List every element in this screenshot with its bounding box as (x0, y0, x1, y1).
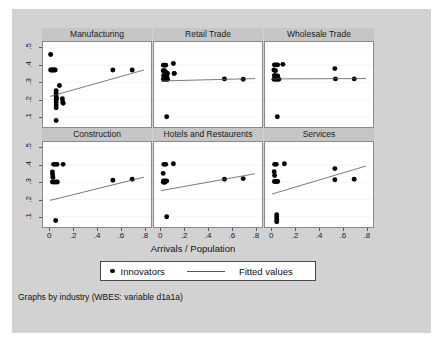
y-tick-mark (39, 82, 42, 83)
plot-area (264, 41, 374, 128)
x-tick-label: .2 (287, 231, 303, 240)
data-point (57, 83, 62, 88)
x-tick-label: .6 (335, 231, 351, 240)
data-point (332, 166, 337, 171)
panel-services: Services (264, 128, 374, 228)
data-point (171, 61, 176, 66)
legend-item-fitted-values: Fitted values (187, 266, 293, 277)
x-tick-mark (208, 228, 209, 231)
x-tick-label: .8 (359, 231, 375, 240)
figure-canvas: Manufacturing.1.2.3.4.5Retail TradeWhole… (12, 9, 431, 333)
y-tick-mark (39, 100, 42, 101)
legend-label-innovators: Innovators (121, 266, 165, 277)
x-tick-mark (367, 228, 368, 231)
plot-area (42, 41, 152, 128)
data-point (164, 114, 169, 119)
y-tick-label: .3 (24, 72, 33, 92)
x-tick-label: .8 (137, 231, 153, 240)
data-point (48, 52, 53, 57)
y-tick-mark (39, 47, 42, 48)
data-point (275, 62, 280, 67)
x-tick-label: .4 (311, 231, 327, 240)
panel-manufacturing: Manufacturing (42, 28, 152, 128)
x-tick-label: 0 (152, 231, 168, 240)
y-tick-label: .2 (24, 189, 33, 209)
data-point (171, 161, 176, 166)
data-point (54, 118, 59, 123)
plot-area (153, 141, 263, 228)
y-tick-label: .4 (24, 54, 33, 74)
data-point (273, 68, 278, 73)
x-tick-mark (184, 228, 185, 231)
panel-title: Wholesale Trade (264, 28, 374, 41)
data-point (130, 177, 135, 182)
panel-title: Services (264, 128, 374, 141)
data-point (50, 175, 55, 180)
data-point (53, 218, 58, 223)
x-tick-label: 0 (41, 231, 57, 240)
legend-label-fitted-values: Fitted values (239, 266, 293, 277)
data-point (53, 68, 58, 73)
panel-wholesale-trade: Wholesale Trade (264, 28, 374, 128)
data-point (164, 214, 169, 219)
fitted-line (272, 166, 366, 194)
chart-legend: Innovators Fitted values (100, 261, 316, 281)
legend-item-innovators: Innovators (110, 266, 165, 277)
data-point (163, 162, 168, 167)
data-point (282, 161, 287, 166)
y-tick-mark (39, 65, 42, 66)
x-tick-mark (121, 228, 122, 231)
legend-dot-icon (110, 269, 115, 274)
x-tick-label: .4 (200, 231, 216, 240)
x-tick-label: 0 (263, 231, 279, 240)
x-tick-mark (256, 228, 257, 231)
x-tick-label: .8 (248, 231, 264, 240)
y-tick-label: .2 (24, 89, 33, 109)
x-tick-label: .4 (89, 231, 105, 240)
data-point (332, 177, 337, 182)
data-point (274, 162, 279, 167)
x-tick-mark (295, 228, 296, 231)
data-point (54, 105, 59, 110)
panel-hotels-and-restaurents: Hotels and Restaurents (153, 128, 263, 228)
data-point (352, 177, 357, 182)
x-tick-mark (343, 228, 344, 231)
y-tick-label: .1 (24, 107, 33, 127)
plot-area (42, 141, 152, 228)
x-tick-mark (73, 228, 74, 231)
x-tick-label: .6 (113, 231, 129, 240)
data-point (61, 162, 66, 167)
data-point (332, 66, 337, 71)
x-tick-label: .6 (224, 231, 240, 240)
panel-title: Hotels and Restaurents (153, 128, 263, 141)
x-tick-mark (160, 228, 161, 231)
x-tick-mark (319, 228, 320, 231)
data-point (110, 178, 115, 183)
data-point (275, 114, 280, 119)
x-tick-label: .2 (65, 231, 81, 240)
data-point (55, 180, 60, 185)
data-point (61, 101, 66, 106)
data-point (163, 63, 168, 68)
x-tick-mark (145, 228, 146, 231)
y-tick-mark (39, 147, 42, 148)
data-point (54, 96, 59, 101)
data-point (130, 68, 135, 73)
fitted-line (50, 70, 144, 96)
data-point (274, 219, 279, 224)
data-point (55, 162, 60, 167)
y-tick-mark (39, 217, 42, 218)
fitted-line (50, 177, 144, 200)
plot-area (264, 141, 374, 228)
data-point (161, 171, 166, 176)
y-tick-label: .3 (24, 172, 33, 192)
y-tick-label: .4 (24, 154, 33, 174)
x-axis-title: Arrivals / Population (12, 243, 374, 254)
y-tick-label: .1 (24, 207, 33, 227)
panel-title: Retail Trade (153, 28, 263, 41)
x-tick-mark (271, 228, 272, 231)
y-tick-label: .5 (24, 37, 33, 57)
y-tick-mark (39, 200, 42, 201)
panel-retail-trade: Retail Trade (153, 28, 263, 128)
data-point (222, 76, 227, 81)
